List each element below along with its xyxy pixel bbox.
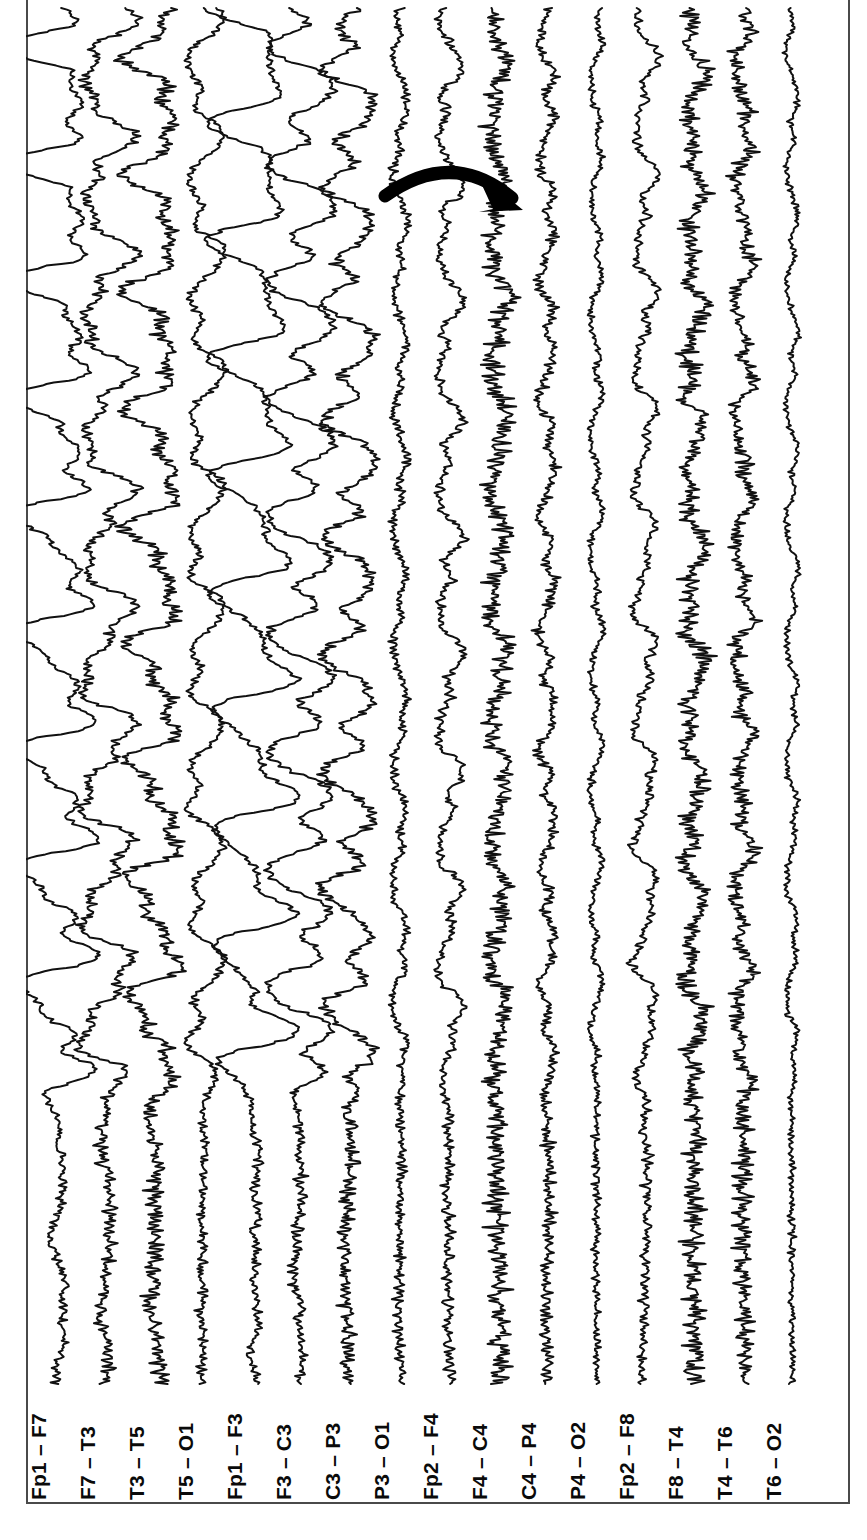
eeg-channel-trace [434,8,468,1384]
channel-label: C4 – P4 [518,1423,539,1500]
eeg-traces-svg [26,0,850,1390]
channel-label: F3 – C3 [273,1424,294,1500]
channel-label: C3 – P3 [322,1423,343,1500]
eeg-channel-trace [26,8,100,1384]
channel-label: T6 – O2 [763,1423,784,1500]
eeg-channel-trace [114,8,186,1384]
channel-label: T5 – O1 [175,1423,196,1500]
eeg-traces-panel [26,0,850,1390]
channel-label: T3 – T5 [126,1426,147,1500]
eeg-channel-trace [74,8,143,1384]
channel-label: F4 – C4 [469,1424,490,1500]
channel-label-row: Fp1 – F7F7 – T3T3 – T5T5 – O1Fp1 – F3F3 … [26,1392,850,1504]
eeg-channel-trace [204,8,301,1384]
channel-label: Fp1 – F3 [224,1413,245,1500]
eeg-channel-trace [388,8,411,1384]
eeg-channel-trace [478,8,520,1384]
channel-label: P4 – O2 [567,1422,588,1500]
channel-label: Fp1 – F7 [28,1413,49,1500]
channel-label: Fp2 – F4 [420,1413,441,1500]
channel-label: Fp2 – F8 [616,1413,637,1500]
eeg-channel-trace [587,8,605,1384]
eeg-channel-trace [316,8,380,1384]
eeg-figure: Fp1 – F7F7 – T3T3 – T5T5 – O1Fp1 – F3F3 … [0,0,867,1540]
eeg-channel-trace [726,8,762,1384]
eeg-channel-trace [184,8,228,1384]
channel-label: F7 – T3 [77,1426,98,1500]
eeg-channel-trace [532,8,562,1384]
eeg-channel-trace [783,8,802,1384]
eeg-channel-trace [627,8,663,1384]
channel-label: T4 – T6 [714,1426,735,1500]
eeg-channel-trace [676,8,717,1384]
channel-label: P3 – O1 [371,1422,392,1500]
channel-label: F8 – T4 [665,1426,686,1500]
